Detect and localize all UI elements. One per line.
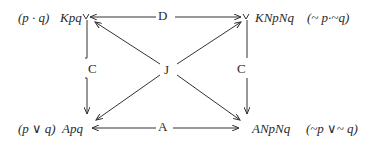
edge-label-bottom: A: [158, 120, 167, 133]
top-right-polish: KNpNq: [255, 11, 294, 24]
edge-label-top: D: [158, 9, 167, 22]
center-label: J: [164, 63, 169, 76]
top-left-polish: Kpq: [60, 11, 82, 24]
edge-label-right: C: [237, 62, 246, 75]
top-left-formula: (p · q): [18, 11, 49, 24]
edge-label-left: C: [88, 62, 97, 75]
bottom-right-polish: ANpNq: [252, 122, 290, 135]
bottom-right-formula: (~p ∨~ q): [306, 122, 358, 135]
top-right-formula: (~ p·~q): [307, 11, 349, 24]
bottom-left-polish: Apq: [62, 122, 83, 135]
bottom-left-formula: (p ∨ q): [18, 122, 56, 135]
